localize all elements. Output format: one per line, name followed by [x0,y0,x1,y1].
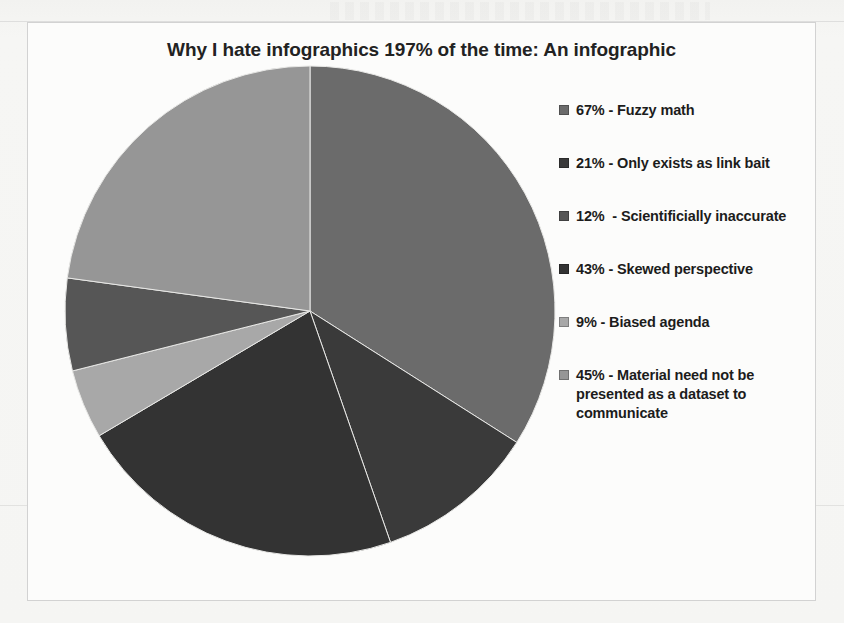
legend-item[interactable]: 43% - Skewed perspective [559,260,809,279]
chart-frame: Why I hate infographics 197% of the time… [27,22,816,601]
chart-legend: 67% - Fuzzy math21% - Only exists as lin… [559,101,809,457]
legend-item[interactable]: 21% - Only exists as link bait [559,154,809,173]
legend-swatch-icon [559,105,569,115]
pie-slice-group [65,66,555,556]
legend-item-label: 67% - Fuzzy math [576,101,694,120]
chart-title: Why I hate infographics 197% of the time… [28,39,815,61]
legend-swatch-icon [559,370,569,380]
pie-slice[interactable] [67,66,310,311]
legend-item[interactable]: 9% - Biased agenda [559,313,809,332]
legend-item[interactable]: 12% - Scientificially inaccurate [559,207,809,226]
legend-swatch-icon [559,317,569,327]
legend-item-label: 43% - Skewed perspective [576,260,753,279]
legend-item-label: 45% - Material need not be presented as … [576,366,809,423]
legend-swatch-icon [559,211,569,221]
legend-item-label: 9% - Biased agenda [576,313,710,332]
legend-item-label: 21% - Only exists as link bait [576,154,770,173]
legend-swatch-icon [559,158,569,168]
pie-chart [64,65,556,557]
scan-ghost-artifact [330,2,710,20]
legend-item-label: 12% - Scientificially inaccurate [576,207,786,226]
legend-item[interactable]: 45% - Material need not be presented as … [559,366,809,423]
legend-item[interactable]: 67% - Fuzzy math [559,101,809,120]
pie-chart-svg [64,65,556,557]
legend-swatch-icon [559,264,569,274]
